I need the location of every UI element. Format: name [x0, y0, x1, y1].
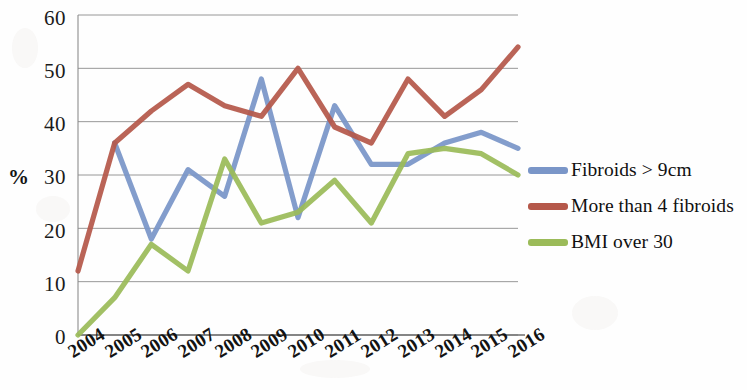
legend-swatch-green	[528, 239, 568, 246]
legend-label-bmi-over-30: BMI over 30	[571, 231, 673, 253]
series-line-2	[78, 148, 518, 335]
chart-legend: Fibroids > 9cm More than 4 fibroids BMI …	[528, 152, 743, 260]
legend-item-fibroids-9cm[interactable]: Fibroids > 9cm	[528, 152, 743, 188]
line-chart: 60 50 40 30 20 10 0 % 200420052006200720…	[0, 0, 747, 390]
series-lines	[78, 47, 518, 335]
legend-item-more-than-4-fibroids[interactable]: More than 4 fibroids	[528, 188, 743, 224]
legend-label-fibroids-9cm: Fibroids > 9cm	[571, 159, 692, 181]
legend-swatch-red	[528, 203, 568, 210]
legend-label-more-than-4-fibroids: More than 4 fibroids	[571, 195, 734, 217]
legend-item-bmi-over-30[interactable]: BMI over 30	[528, 224, 743, 260]
series-line-1	[78, 47, 518, 271]
legend-swatch-blue	[528, 167, 568, 174]
gridlines	[78, 15, 518, 335]
series-line-0	[115, 79, 518, 239]
